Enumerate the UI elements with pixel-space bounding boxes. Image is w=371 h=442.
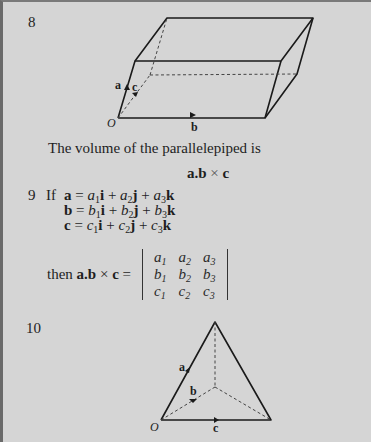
label-b: b: [190, 384, 197, 399]
label-a: a: [179, 360, 185, 375]
tetrahedron-figure: [3, 2, 371, 442]
label-origin: O: [150, 420, 159, 435]
label-c: c: [213, 421, 218, 436]
textbook-page: 8 a c b O The volume of the parallelepip…: [0, 0, 371, 442]
arrow-a-icon: [185, 367, 190, 373]
